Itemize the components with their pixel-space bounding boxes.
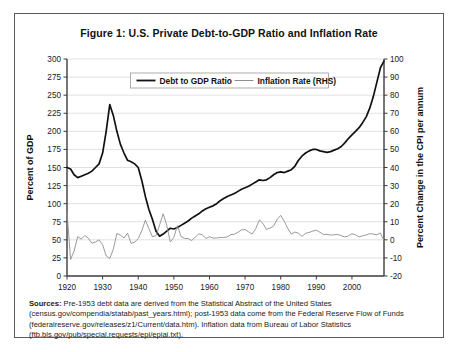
right-axis-tick-label: 0 <box>390 236 395 245</box>
left-axis-tick-label: 275 <box>47 73 61 82</box>
x-axis-tick-label: 1980 <box>272 283 291 292</box>
left-axis-tick-label: 0 <box>56 272 61 281</box>
left-axis-tick-label: 50 <box>52 236 62 245</box>
sources-text: Pre-1953 debt data are derived from the … <box>29 299 404 339</box>
x-axis-tick-label: 1940 <box>129 283 148 292</box>
right-axis-tick-label: 90 <box>390 73 400 82</box>
left-axis-tick-label: 75 <box>52 218 62 227</box>
x-axis-tick-label: 1950 <box>165 283 184 292</box>
x-axis-tick-label: 2000 <box>343 283 362 292</box>
right-axis-tick-label: 40 <box>390 164 400 173</box>
legend-label-2: Inflation Rate (RHS) <box>258 76 337 86</box>
right-axis-tick-label: 10 <box>390 218 400 227</box>
sources-note: Sources: Pre-1953 debt data are derived … <box>29 299 433 341</box>
left-axis-tick-label: 100 <box>47 200 61 209</box>
right-axis-tick-label: 70 <box>390 109 400 118</box>
x-axis-tick-label: 1990 <box>307 283 326 292</box>
right-axis-tick-label: 50 <box>390 145 400 154</box>
right-axis-tick-label: 20 <box>390 200 400 209</box>
right-axis-tick-label: 60 <box>390 127 400 136</box>
debt-inflation-line-chart: 0255075100125150175200225250275300-20-10… <box>15 14 445 339</box>
x-axis-tick-label: 1960 <box>200 283 219 292</box>
right-axis-tick-label: -20 <box>390 272 402 281</box>
left-axis-tick-label: 225 <box>47 109 61 118</box>
left-axis-title: Percent of GDP <box>25 134 35 200</box>
x-axis-tick-label: 1920 <box>58 283 77 292</box>
left-axis-tick-label: 125 <box>47 182 61 191</box>
chart-plot-area: 0255075100125150175200225250275300-20-10… <box>15 14 445 339</box>
sources-label: Sources: <box>29 299 62 308</box>
right-axis-tick-label: 30 <box>390 182 400 191</box>
figure-container: Figure 1: U.S. Private Debt-to-GDP Ratio… <box>14 13 444 338</box>
right-axis-tick-label: -10 <box>390 254 402 263</box>
right-axis-tick-label: 80 <box>390 91 400 100</box>
x-axis-tick-label: 1970 <box>236 283 255 292</box>
left-axis-tick-label: 200 <box>47 127 61 136</box>
left-axis-tick-label: 25 <box>52 254 62 263</box>
left-axis-tick-label: 300 <box>47 55 61 64</box>
left-axis-tick-label: 175 <box>47 145 61 154</box>
left-axis-tick-label: 250 <box>47 91 61 100</box>
right-axis-tick-label: 100 <box>390 55 404 64</box>
right-axis-title: Percent Change in the CPI per annum <box>415 87 425 248</box>
x-axis-tick-label: 1930 <box>94 283 113 292</box>
legend-label-1: Debt to GDP Ratio <box>160 76 232 86</box>
left-axis-tick-label: 150 <box>47 164 61 173</box>
